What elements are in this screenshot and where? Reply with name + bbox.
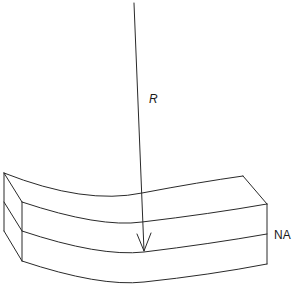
beam-left-bottom-slant [4,231,22,261]
beam-front-bottom-curve [22,261,267,283]
radius-label: R [149,92,158,106]
beam-left-top-slant [4,173,22,202]
beam-left-mid-slant [4,202,22,231]
radius-arrow-line [134,3,144,251]
beam-diagram: R NA [0,0,292,287]
beam-right-top-slant [243,176,267,204]
beam-back-top-edge [4,173,243,196]
beam-front-top-curve [22,202,267,223]
neutral-axis-label: NA [274,228,291,242]
